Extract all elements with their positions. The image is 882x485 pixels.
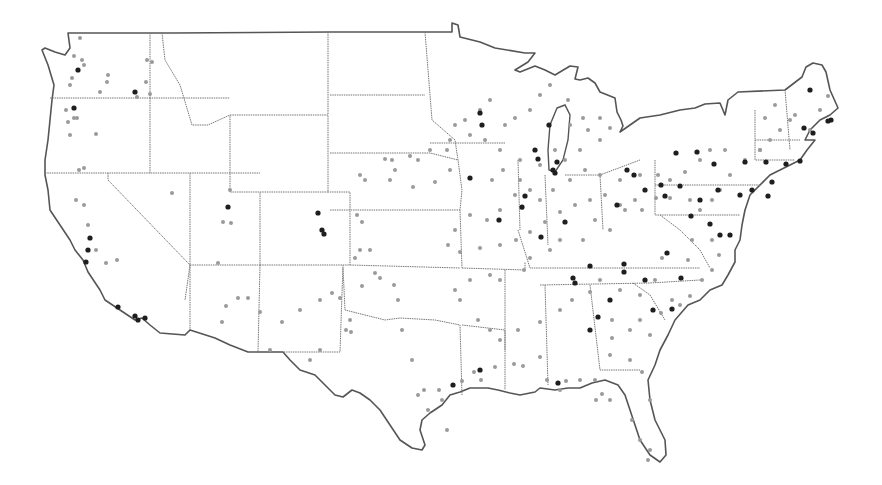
small-place-dot [588,290,592,294]
large-city-dot [662,193,667,198]
small-place-dot [623,208,627,212]
small-place-dot [479,378,483,382]
large-city-dot [587,327,592,332]
small-place-dot [608,398,612,402]
small-place-dot [246,296,250,300]
large-city-dot [673,150,678,155]
small-place-dot [358,248,362,252]
small-place-dot [568,123,572,127]
small-place-dot [593,218,597,222]
small-place-dot [410,358,414,362]
large-city-dot [552,170,557,175]
small-place-dot [353,256,357,260]
small-place-dot [513,116,517,120]
small-place-dot [656,173,660,177]
small-place-dot [578,378,582,382]
small-place-dot [106,73,110,77]
large-city-dot [694,149,699,154]
small-place-dot [598,278,602,282]
large-city-dot [614,202,619,207]
large-city-dot [642,277,647,282]
small-place-dot [573,203,577,207]
large-city-dot [83,259,88,264]
small-place-dot [646,458,650,462]
small-place-dot [588,198,592,202]
small-place-dot [463,118,467,122]
large-city-dot [75,67,80,72]
large-city-dot [450,382,455,387]
small-place-dot [538,355,542,359]
small-place-dot [396,298,400,302]
large-city-dot [711,161,716,166]
small-place-dot [826,94,830,98]
small-place-dot [690,238,694,242]
small-place-dot [668,196,672,200]
small-place-dot [551,188,555,192]
small-place-dot [86,223,90,227]
large-city-dot [810,130,815,135]
small-place-dot [518,158,522,162]
large-city-dot [664,250,669,255]
small-place-dot [538,163,542,167]
small-place-dot [543,220,547,224]
large-city-dot [650,307,655,312]
small-place-dot [104,261,108,265]
large-city-dot [749,187,754,192]
small-place-dot [422,388,426,392]
small-place-dot [503,123,507,127]
large-city-dot [621,261,626,266]
small-place-dot [338,296,342,300]
small-place-dot [98,90,102,94]
large-city-dot [769,179,774,184]
large-city-dot [631,172,636,177]
small-place-dot [224,304,228,308]
small-place-dot [80,58,84,62]
large-city-dot [570,275,575,280]
large-city-dot [828,117,833,122]
small-place-dot [115,258,119,262]
large-city-dot [85,247,90,252]
small-place-dot [558,210,562,214]
small-place-dot [638,318,642,322]
small-place-dot [630,418,634,422]
large-city-dot [624,167,629,172]
large-city-dot [607,297,612,302]
small-place-dot [683,170,687,174]
small-place-dot [360,284,364,288]
small-place-dot [564,379,568,383]
small-place-dot [640,208,644,212]
small-place-dot [268,348,272,352]
large-city-dot [807,87,812,92]
small-place-dot [416,393,420,397]
small-place-dot [148,92,152,96]
large-city-dot [225,204,230,209]
small-place-dot [476,318,480,322]
small-place-dot [640,370,644,374]
small-place-dot [538,198,542,202]
small-place-dot [392,283,396,287]
small-place-dot [82,166,86,170]
small-place-dot [150,60,154,64]
small-place-dot [528,256,532,260]
large-city-dot [321,231,326,236]
large-city-dot [797,158,802,163]
small-place-dot [446,243,450,247]
small-place-dot [488,328,492,332]
small-place-dot [82,203,86,207]
small-place-dot [521,364,525,368]
large-city-dot [715,187,720,192]
small-place-dot [498,148,502,152]
small-place-dot [698,158,702,162]
small-place-dot [710,268,714,272]
small-place-dot [670,298,674,302]
small-place-dot [688,294,692,298]
small-place-dot [448,138,452,142]
small-place-dot [216,261,220,265]
small-place-dot [653,278,657,282]
small-place-dot [558,308,562,312]
small-place-dot [258,310,262,314]
large-city-dot [801,125,806,130]
small-place-dot [453,123,457,127]
large-city-dot [71,105,76,110]
large-city-dot [538,234,543,239]
